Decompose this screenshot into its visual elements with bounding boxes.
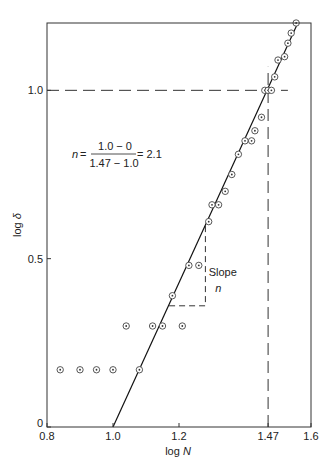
- y-tick-label: 1.0: [28, 84, 43, 96]
- data-point: [258, 114, 264, 120]
- data-point: [252, 128, 258, 134]
- x-tick-label: 0.8: [39, 430, 54, 442]
- y-axis-ticks: 00.51.0: [28, 84, 51, 429]
- formula-equals: =: [80, 148, 86, 160]
- x-tick-label: 1.6: [303, 430, 318, 442]
- data-point: [285, 40, 291, 46]
- data-point: [215, 202, 221, 208]
- log-log-chart: 0.81.01.21.471.6 00.51.0 log N log δ n =…: [0, 0, 335, 470]
- data-point: [209, 202, 215, 208]
- x-tick-label: 1.0: [105, 430, 120, 442]
- data-point: [57, 367, 63, 373]
- data-point: [281, 53, 287, 59]
- y-tick-label: 0.5: [28, 253, 43, 265]
- data-point: [110, 367, 116, 373]
- formula-lhs-var: n: [72, 148, 78, 160]
- data-point: [149, 323, 155, 329]
- data-point: [222, 188, 228, 194]
- data-point: [196, 262, 202, 268]
- data-point: [235, 151, 241, 157]
- formula-numerator: 1.0 − 0: [98, 140, 132, 152]
- data-points: [57, 20, 299, 373]
- data-point: [206, 218, 212, 224]
- data-point: [136, 367, 142, 373]
- plot-frame: [47, 23, 311, 427]
- x-tick-label: 1.2: [171, 430, 186, 442]
- data-point: [229, 171, 235, 177]
- slope-label: Slope: [209, 266, 237, 278]
- formula-denominator: 1.47 − 1.0: [89, 157, 138, 169]
- data-point: [186, 262, 192, 268]
- x-axis-label: log N: [165, 445, 191, 457]
- data-point: [288, 30, 294, 36]
- data-point: [179, 323, 185, 329]
- data-point: [93, 367, 99, 373]
- data-point: [159, 323, 165, 329]
- data-point: [242, 138, 248, 144]
- x-axis-ticks: 0.81.01.21.471.6: [39, 423, 318, 442]
- data-point: [169, 293, 175, 299]
- data-point: [275, 57, 281, 63]
- reference-lines: [47, 67, 288, 427]
- slope-formula: n = 1.0 − 0 1.47 − 1.0 = 2.1: [72, 140, 162, 169]
- data-point: [248, 138, 254, 144]
- data-point: [268, 87, 274, 93]
- slope-annotation: Slopen: [209, 266, 237, 295]
- formula-result: = 2.1: [137, 148, 162, 160]
- y-axis-label: log δ: [11, 212, 23, 237]
- slope-symbol-label: n: [215, 282, 221, 294]
- data-point: [272, 74, 278, 80]
- data-point: [123, 323, 129, 329]
- x-tick-label: 1.47: [257, 430, 278, 442]
- data-point: [77, 367, 83, 373]
- y-tick-label: 0: [37, 417, 43, 429]
